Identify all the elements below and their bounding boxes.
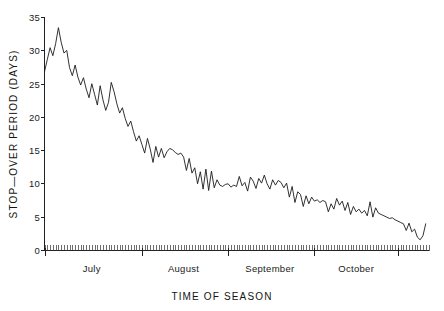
y-axis <box>41 17 45 251</box>
y-axis-tick-labels: 35 30 25 20 15 10 5 0 <box>29 12 40 256</box>
y-tick-label: 20 <box>29 112 40 123</box>
data-series-line <box>45 28 426 240</box>
x-tick-label-august: August <box>168 263 199 274</box>
x-axis-title: TIME OF SEASON <box>171 291 272 302</box>
x-tick-label-october: October <box>338 263 374 274</box>
y-axis-title: STOP—OVER PERIOD (DAYS) <box>8 50 19 219</box>
x-tick-label-july: July <box>83 263 101 274</box>
y-tick-label: 35 <box>29 12 40 23</box>
y-tick-label: 0 <box>35 245 40 256</box>
x-axis-month-labels: July August September October <box>83 263 374 274</box>
y-tick-label: 5 <box>35 212 40 223</box>
y-tick-label: 25 <box>29 79 40 90</box>
x-tick-label-september: September <box>245 263 294 274</box>
line-chart: 35 30 25 20 15 10 5 0 <box>0 0 444 311</box>
x-axis-minor-ticks <box>46 245 430 251</box>
y-tick-label: 30 <box>29 45 40 56</box>
y-tick-label: 10 <box>29 178 40 189</box>
chart-figure: 35 30 25 20 15 10 5 0 <box>0 0 444 311</box>
y-tick-label: 15 <box>29 145 40 156</box>
